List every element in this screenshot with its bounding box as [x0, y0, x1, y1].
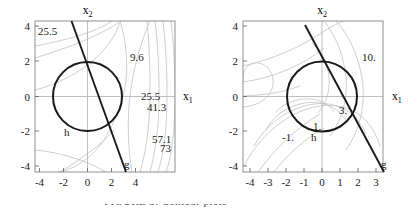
- svg-text:-4: -4: [229, 160, 239, 172]
- svg-text:-1: -1: [299, 176, 308, 188]
- plot-svg-left: x2 x1 -4 -2 0 2 4 4 2 0 -2 -4 25.5 9.6: [0, 0, 208, 211]
- svg-text:4: 4: [133, 176, 139, 188]
- svg-text:-2: -2: [229, 125, 238, 137]
- svg-text:2: 2: [25, 55, 31, 67]
- contour-plot-right: x2 x1 -4 -3 -2 -1 0 1 2 3 4 2 0 -2 -4: [208, 0, 416, 211]
- svg-text:2: 2: [233, 55, 239, 67]
- svg-text:0: 0: [25, 91, 31, 103]
- svg-text:-4: -4: [245, 176, 255, 188]
- svg-text:0: 0: [85, 176, 91, 188]
- curve-label-h-right: h: [311, 131, 317, 143]
- svg-text:1: 1: [337, 176, 343, 188]
- figure-caption: FIGURE 3. Contour plots: [104, 204, 227, 207]
- ytick-labels-right: 4 2 0 -2 -4: [229, 20, 239, 172]
- ytick-labels-left: 4 2 0 -2 -4: [21, 20, 31, 172]
- axis-label-x1-right: x1: [392, 90, 402, 105]
- tick-marks-left: [35, 26, 136, 172]
- svg-text:-2: -2: [21, 125, 30, 137]
- svg-text:-4: -4: [21, 160, 31, 172]
- svg-text:4: 4: [233, 20, 239, 32]
- svg-text:-4: -4: [35, 176, 45, 188]
- svg-text:-1.: -1.: [282, 131, 294, 143]
- axis-label-x1-left: x1: [183, 90, 193, 105]
- svg-text:2: 2: [355, 176, 361, 188]
- svg-text:41.3: 41.3: [147, 101, 167, 113]
- curve-g-right: [305, 25, 384, 172]
- figure-caption-strip: FIGURE 3. Contour plots: [0, 204, 416, 211]
- svg-text:3: 3: [373, 176, 379, 188]
- svg-text:4: 4: [25, 20, 31, 32]
- figure-container: x2 x1 -4 -2 0 2 4 4 2 0 -2 -4 25.5 9.6: [0, 0, 416, 211]
- svg-text:3.: 3.: [339, 104, 348, 116]
- plot-svg-right: x2 x1 -4 -3 -2 -1 0 1 2 3 4 2 0 -2 -4: [208, 0, 416, 211]
- contour-labels-left: 25.5 9.6 25.5 41.3 57.1 73: [38, 25, 172, 154]
- svg-text:73: 73: [160, 142, 172, 154]
- svg-text:9.6: 9.6: [130, 51, 144, 63]
- axis-label-x2-right: x2: [317, 4, 327, 19]
- curve-label-g-left: g: [124, 158, 130, 170]
- curve-label-h-left: h: [64, 126, 70, 138]
- curve-label-g-right: g: [381, 158, 387, 170]
- svg-text:2: 2: [109, 176, 115, 188]
- svg-text:-2: -2: [281, 176, 290, 188]
- xtick-labels-right: -4 -3 -2 -1 0 1 2 3: [245, 176, 379, 188]
- svg-text:0: 0: [233, 91, 239, 103]
- svg-text:0: 0: [319, 176, 325, 188]
- axis-label-x2-left: x2: [83, 4, 93, 19]
- svg-text:10.: 10.: [362, 51, 376, 63]
- xtick-labels-left: -4 -2 0 2 4: [35, 176, 139, 188]
- contour-plot-left: x2 x1 -4 -2 0 2 4 4 2 0 -2 -4 25.5 9.6: [0, 0, 208, 211]
- svg-text:25.5: 25.5: [38, 25, 58, 37]
- svg-text:-2: -2: [59, 176, 68, 188]
- svg-text:-3: -3: [263, 176, 273, 188]
